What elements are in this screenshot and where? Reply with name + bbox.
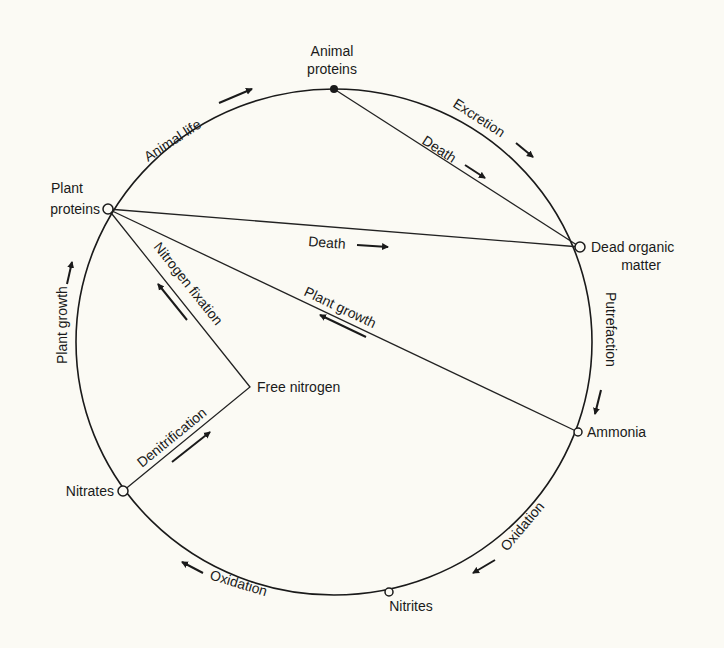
node-plant-proteins (103, 204, 113, 214)
node-nitrates (118, 486, 128, 496)
process-denitrification: Denitrification (134, 404, 210, 470)
label-animal-proteins-2: proteins (307, 61, 357, 77)
process-death-animal: Death (419, 132, 459, 166)
label-ammonia: Ammonia (587, 424, 646, 440)
arrow-plant-growth-arc-icon (67, 262, 72, 284)
nitrogen-cycle-diagram: Animal proteins Plant proteins Dead orga… (0, 0, 724, 648)
label-dead-organic-matter-1: Dead organic (591, 239, 674, 255)
label-nitrites: Nitrites (389, 598, 433, 614)
arrow-excretion-icon (516, 143, 533, 157)
node-dead-organic-matter (575, 242, 585, 252)
process-animal-life: Animal life (141, 116, 204, 165)
arrow-animal-life-icon (219, 89, 252, 103)
label-nitrates: Nitrates (66, 483, 114, 499)
node-ammonia (574, 428, 582, 436)
label-dead-organic-matter-2: matter (621, 257, 661, 273)
label-free-nitrogen: Free nitrogen (257, 379, 340, 395)
edge-nitrogen-fixation-denitrification (108, 209, 250, 491)
label-plant-proteins-2: proteins (50, 201, 100, 217)
node-animal-proteins (330, 85, 338, 93)
arrow-putrefaction-icon (595, 390, 601, 414)
process-putrefaction: Putrefaction (603, 292, 619, 367)
arrow-death-animal-icon (465, 165, 485, 178)
process-oxidation-lower-right: Oxidation (497, 498, 547, 554)
node-nitrites (385, 588, 393, 596)
process-plant-growth-arc: Plant growth (54, 286, 70, 364)
label-plant-proteins-1: Plant (51, 180, 83, 196)
arrow-oxidation-lower-right-icon (473, 560, 495, 573)
arrow-oxidation-lower-left-icon (182, 562, 203, 573)
cycle-circle (76, 89, 592, 595)
label-animal-proteins-1: Animal (311, 43, 354, 59)
process-oxidation-lower-left: Oxidation (208, 567, 269, 600)
process-death-plant: Death (308, 233, 347, 252)
process-nitrogen-fixation: Nitrogen fixation (151, 239, 227, 328)
arrow-death-plant-icon (357, 245, 388, 247)
